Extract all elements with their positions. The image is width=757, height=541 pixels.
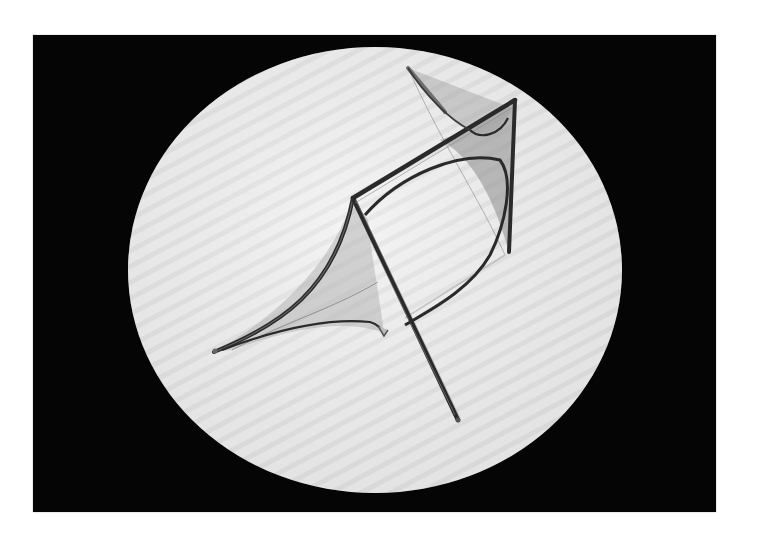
backdrop-disc: [128, 47, 622, 493]
photograph-scene: [0, 0, 757, 541]
